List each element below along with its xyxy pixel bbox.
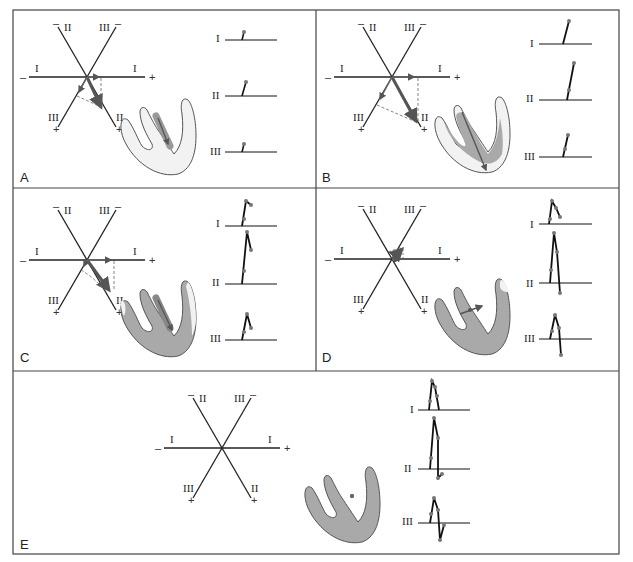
axis-label-ii-top: II: [64, 204, 72, 216]
axis-label-iii-bottom: III: [353, 293, 364, 305]
axis-label-ii-top: II: [369, 203, 377, 215]
panel-d: – + I I – II III – III + II +: [322, 199, 592, 365]
axis-label-ii-top: II: [64, 21, 72, 33]
trace-label-iii: III: [524, 150, 535, 162]
panel-label-d: D: [322, 350, 331, 365]
heart-diagram: [121, 99, 196, 175]
lead-ii-negative-sign: –: [53, 200, 60, 212]
heart-diagram: [121, 281, 196, 357]
lead-traces: I II III: [210, 199, 277, 344]
heart-diagram: [435, 279, 510, 355]
axis-label-iii-bottom: III: [48, 111, 59, 123]
lead-ii-positive-sign: +: [421, 305, 427, 317]
lead-ii-negative-sign: –: [188, 388, 195, 400]
panel-label-e: E: [20, 537, 29, 552]
axis-label-i-right: I: [133, 62, 137, 74]
mean-vector-arrow: [81, 260, 114, 293]
lead-iii-positive-sign: +: [53, 123, 59, 135]
trace-label-ii: II: [212, 276, 220, 288]
lead-traces: I II III: [524, 19, 592, 162]
axis-label-iii-top: III: [404, 203, 415, 215]
lead-i-positive-sign: +: [149, 254, 155, 266]
lead-ii-negative-sign: –: [358, 17, 365, 29]
panel-label-c: C: [20, 350, 29, 365]
lead-iii-negative-sign: –: [420, 199, 427, 211]
axis-label-ii-bottom: II: [251, 482, 259, 494]
axis-label-i-right: I: [133, 245, 137, 257]
axis-label-iii-bottom: III: [353, 111, 364, 123]
lead-iii-negative-sign: –: [115, 17, 122, 29]
panel-label-a: A: [20, 170, 29, 185]
trace-label-i: I: [216, 32, 220, 44]
axis-label-i-left: I: [340, 62, 344, 74]
ecg-vector-figure: – + I I – II III – III + II +: [0, 0, 633, 562]
axis-label-iii-top: III: [99, 21, 110, 33]
lead-i-negative-sign: –: [20, 254, 27, 266]
axis-label-ii-bottom: II: [421, 111, 429, 123]
lead-ii-positive-sign: +: [251, 494, 257, 506]
hexaxial-diagram: – + I I – II III – III + II +: [20, 17, 155, 135]
mean-vector-arrow: [77, 77, 101, 107]
lead-i-negative-sign: –: [325, 71, 332, 83]
lead-traces: I II III: [402, 379, 470, 542]
panel-e: – + I I – II III – III + II + I II III: [20, 379, 470, 552]
lead-traces: I II III: [210, 30, 277, 157]
lead-iii-negative-sign: –: [250, 388, 257, 400]
heart-diagram: [435, 97, 510, 173]
lead-i-negative-sign: –: [155, 442, 162, 454]
lead-ii-negative-sign: –: [358, 199, 365, 211]
lead-ii-positive-sign: +: [421, 123, 427, 135]
axis-label-i-right: I: [438, 62, 442, 74]
axis-label-ii-bottom: II: [421, 293, 429, 305]
trace-label-i: I: [530, 37, 534, 49]
lead-ii-negative-sign: –: [53, 17, 60, 29]
panel-label-b: B: [322, 170, 331, 185]
axis-label-i-left: I: [170, 433, 174, 445]
panel-c: – + I I – II III – III + II +: [20, 199, 277, 365]
mean-vector-arrow: [377, 77, 418, 122]
axis-label-ii-top: II: [199, 392, 207, 404]
hexaxial-diagram: – + I I – II III – III + II +: [20, 200, 155, 318]
trace-label-i: I: [216, 217, 220, 229]
lead-traces: I II III: [524, 199, 592, 357]
lead-iii-negative-sign: –: [420, 17, 427, 29]
trace-label-ii: II: [212, 89, 220, 101]
trace-label-iii: III: [524, 332, 535, 344]
figure-caption: [14, 556, 624, 562]
lead-i-positive-sign: +: [454, 253, 460, 265]
axis-label-i-right: I: [438, 244, 442, 256]
axis-label-iii-bottom: III: [48, 294, 59, 306]
lead-iii-positive-sign: +: [358, 305, 364, 317]
axis-label-iii-top: III: [99, 204, 110, 216]
lead-iii-positive-sign: +: [358, 123, 364, 135]
axis-label-i-left: I: [35, 62, 39, 74]
panel-b: – + I I – II III – III + II +: [322, 17, 592, 185]
trace-label-i: I: [530, 218, 534, 230]
trace-label-iii: III: [210, 332, 221, 344]
lead-i-negative-sign: –: [20, 71, 27, 83]
axis-label-i-left: I: [340, 244, 344, 256]
axis-label-iii-bottom: III: [183, 482, 194, 494]
lead-iii-positive-sign: +: [188, 494, 194, 506]
lead-i-negative-sign: –: [325, 253, 332, 265]
trace-label-iii: III: [210, 145, 221, 157]
lead-i-positive-sign: +: [284, 442, 290, 454]
panel-a: – + I I – II III – III + II +: [20, 17, 277, 185]
lead-iii-negative-sign: –: [115, 200, 122, 212]
trace-label-i: I: [410, 403, 414, 415]
axis-label-i-right: I: [268, 433, 272, 445]
axis-label-iii-top: III: [404, 21, 415, 33]
axis-label-i-left: I: [35, 245, 39, 257]
lead-i-positive-sign: +: [149, 71, 155, 83]
hexaxial-diagram: – + I I – II III – III + II +: [155, 388, 290, 506]
lead-iii-positive-sign: +: [53, 306, 59, 318]
axis-label-ii-top: II: [369, 21, 377, 33]
trace-label-ii: II: [526, 92, 534, 104]
lead-i-positive-sign: +: [454, 71, 460, 83]
trace-label-iii: III: [402, 515, 413, 527]
trace-label-ii: II: [526, 277, 534, 289]
axis-label-iii-top: III: [234, 392, 245, 404]
heart-diagram: [305, 467, 380, 543]
trace-label-ii: II: [404, 462, 412, 474]
